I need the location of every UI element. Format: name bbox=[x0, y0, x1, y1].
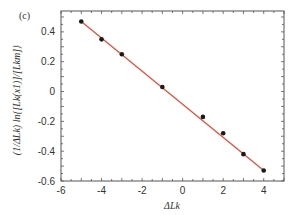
x-axis-label: ΔLk bbox=[163, 200, 180, 211]
chart: (c) -6-4-2024 -0.6-0.4-0.200.20.4 ΔLk (1… bbox=[0, 0, 295, 215]
y-tick-label: 0.4 bbox=[41, 26, 55, 37]
data-point bbox=[79, 19, 84, 24]
x-tick-label: -6 bbox=[57, 185, 66, 196]
y-tick-label: -0.6 bbox=[38, 176, 56, 187]
x-axis-ticks: -6-4-2024 bbox=[57, 11, 284, 196]
y-axis-label: (1/ΔLk) ln{[Lk(x1)]/[Lkm]} bbox=[11, 45, 23, 155]
y-tick-label: 0 bbox=[49, 86, 55, 97]
svg-text:(1/ΔLk) ln{[Lk(x1)]/[Lkm]}: (1/ΔLk) ln{[Lk(x1)]/[Lkm]} bbox=[11, 45, 23, 155]
x-tick-label: 0 bbox=[180, 185, 186, 196]
data-point bbox=[99, 37, 104, 42]
data-point bbox=[221, 131, 226, 136]
y-tick-label: -0.2 bbox=[38, 116, 56, 127]
data-point bbox=[160, 85, 165, 90]
data-point bbox=[120, 52, 125, 57]
panel-label: (c) bbox=[19, 10, 30, 22]
fit-line bbox=[81, 21, 263, 170]
x-tick-label: 2 bbox=[220, 185, 226, 196]
data-point bbox=[201, 115, 206, 120]
data-point bbox=[261, 168, 266, 173]
y-axis-ticks: -0.6-0.4-0.200.20.4 bbox=[38, 17, 284, 187]
y-tick-label: -0.4 bbox=[38, 146, 56, 157]
y-tick-label: 0.2 bbox=[41, 56, 55, 67]
x-tick-label: -2 bbox=[138, 185, 147, 196]
data-point bbox=[241, 152, 246, 157]
x-tick-label: -4 bbox=[97, 185, 106, 196]
x-tick-label: 4 bbox=[261, 185, 267, 196]
